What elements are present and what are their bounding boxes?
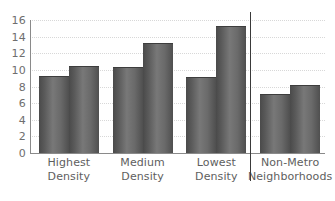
y-tick-label-2: 2: [19, 131, 26, 142]
y-tick-label-4: 4: [19, 114, 26, 125]
x-category-label-line: Neighborhoods: [246, 170, 334, 184]
bar: [39, 76, 69, 153]
x-axis-baseline: [30, 153, 325, 154]
bar: [216, 26, 246, 153]
plot-area: [30, 20, 325, 153]
bar: [69, 66, 99, 153]
bar: [290, 85, 320, 153]
x-category-label-line: Non-Metro: [261, 156, 319, 169]
y-tick-label-8: 8: [19, 81, 26, 92]
bar: [143, 43, 173, 153]
x-category-label-line: Highest: [47, 156, 90, 169]
bar: [260, 94, 290, 153]
x-category-label-line: Medium: [120, 156, 165, 169]
y-tick-label-12: 12: [12, 48, 26, 59]
x-axis-category-labels: HighestDensityMediumDensityLowestDensity…: [30, 156, 325, 201]
bar: [113, 67, 143, 153]
y-axis-line: [30, 20, 31, 154]
y-tick-label-10: 10: [12, 64, 26, 75]
metro-nonmetro-divider: [250, 12, 251, 181]
y-tick-label-14: 14: [12, 31, 26, 42]
y-tick-label-6: 6: [19, 98, 26, 109]
y-axis-tick-labels: 0246810121416: [0, 20, 26, 153]
x-category-label: Non-MetroNeighborhoods: [246, 156, 334, 184]
y-tick-label-16: 16: [12, 15, 26, 26]
bar-chart: 0246810121416 HighestDensityMediumDensit…: [0, 0, 335, 201]
bars-layer: [30, 20, 325, 153]
x-category-label-line: Lowest: [197, 156, 236, 169]
bar: [186, 77, 216, 153]
